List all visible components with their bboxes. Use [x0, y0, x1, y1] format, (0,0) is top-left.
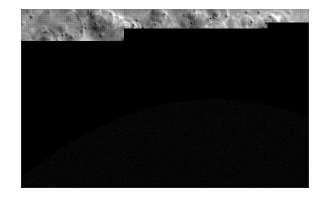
moon-surface-canvas	[21, 9, 309, 188]
moon-surface-photo	[21, 9, 309, 188]
screenshot-root	[0, 0, 329, 203]
